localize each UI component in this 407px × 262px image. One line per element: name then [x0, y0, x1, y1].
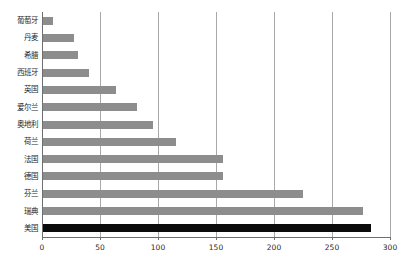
category-label-葡萄牙: 葡萄牙 — [0, 16, 38, 25]
bar-荷兰 — [43, 138, 176, 146]
category-label-丹麦: 丹麦 — [0, 33, 38, 42]
bar-法国 — [43, 155, 223, 163]
x-tick-label-200: 200 — [267, 243, 281, 252]
category-label-希腊: 希腊 — [0, 51, 38, 60]
tick-mark-250 — [332, 237, 333, 240]
bar-chart: 050100150200250300 葡萄牙丹麦希腊西班牙英国爱尔兰奥地利荷兰法… — [0, 0, 407, 262]
bar-芬兰 — [43, 190, 303, 198]
category-label-奥地利: 奥地利 — [0, 120, 38, 129]
gridline-100 — [158, 12, 159, 237]
bar-丹麦 — [43, 34, 74, 42]
tick-mark-300 — [390, 237, 391, 240]
tick-mark-200 — [274, 237, 275, 240]
bar-瑞典 — [43, 207, 363, 215]
x-tick-label-150: 150 — [209, 243, 223, 252]
bar-美国 — [43, 224, 371, 232]
category-label-爱尔兰: 爱尔兰 — [0, 103, 38, 112]
category-label-美国: 美国 — [0, 224, 38, 233]
category-label-法国: 法国 — [0, 155, 38, 164]
gridline-150 — [216, 12, 217, 237]
category-label-芬兰: 芬兰 — [0, 189, 38, 198]
bar-英国 — [43, 86, 116, 94]
chart-title — [0, 0, 407, 1]
tick-mark-100 — [158, 237, 159, 240]
x-tick-label-300: 300 — [383, 243, 397, 252]
bar-爱尔兰 — [43, 103, 137, 111]
x-tick-label-0: 0 — [40, 243, 45, 252]
gridline-250 — [332, 12, 333, 237]
category-label-荷兰: 荷兰 — [0, 137, 38, 146]
gridline-300 — [390, 12, 391, 237]
x-tick-label-100: 100 — [151, 243, 165, 252]
category-label-德国: 德国 — [0, 172, 38, 181]
category-label-瑞典: 瑞典 — [0, 207, 38, 216]
plot-area — [42, 12, 390, 237]
tick-mark-0 — [42, 237, 43, 240]
bar-西班牙 — [43, 69, 89, 77]
bar-希腊 — [43, 51, 78, 59]
x-tick-label-250: 250 — [325, 243, 339, 252]
gridline-200 — [274, 12, 275, 237]
tick-mark-50 — [100, 237, 101, 240]
bar-葡萄牙 — [43, 17, 53, 25]
category-label-西班牙: 西班牙 — [0, 68, 38, 77]
tick-mark-150 — [216, 237, 217, 240]
x-tick-label-50: 50 — [95, 243, 105, 252]
category-label-英国: 英国 — [0, 85, 38, 94]
bar-奥地利 — [43, 121, 153, 129]
bar-德国 — [43, 172, 223, 180]
